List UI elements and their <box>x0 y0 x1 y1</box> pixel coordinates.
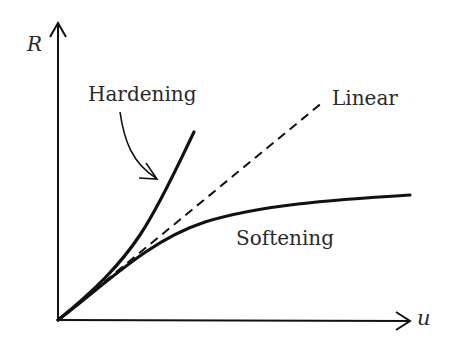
y-axis <box>50 23 66 320</box>
softening-curve <box>58 195 410 320</box>
hardening-pointer-arrow-icon <box>120 112 157 179</box>
load-displacement-diagram <box>0 0 455 343</box>
linear-label: Linear <box>332 88 398 108</box>
hardening-label: Hardening <box>88 84 197 104</box>
x-axis <box>58 312 410 330</box>
y-axis-label: R <box>27 34 42 54</box>
x-axis-label: u <box>417 308 431 329</box>
hardening-curve <box>58 132 194 320</box>
softening-label: Softening <box>236 228 334 248</box>
